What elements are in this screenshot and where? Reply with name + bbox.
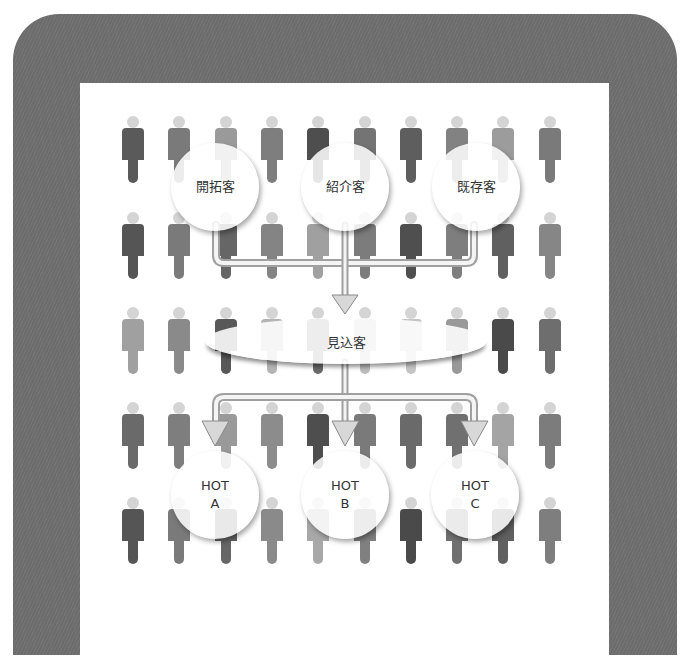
target-label-line2: B [341,495,350,513]
arrow-down-icon [332,295,358,314]
arrow-down-icon [202,421,229,446]
source-bubble-new-customers: 開拓客 [171,143,259,231]
arrow-down-icon [332,421,359,446]
source-label: 紹介客 [326,178,365,196]
target-bubble-hot-c: HOT C [431,451,519,539]
source-bubble-referral-customers: 紹介客 [301,143,389,231]
source-bubble-existing-customers: 既存客 [432,143,520,231]
target-label-line2: A [211,495,220,513]
target-label-line2: C [470,495,479,513]
branch-pipe [216,362,474,425]
arrow-down-icon [461,421,488,446]
source-label: 既存客 [457,178,496,196]
target-bubble-hot-b: HOT B [301,451,389,539]
target-label-line1: HOT [201,477,229,495]
source-label: 開拓客 [196,178,235,196]
prospect-label: 見込客 [327,332,366,351]
target-label-line1: HOT [461,477,489,495]
merge-pipe [216,225,474,298]
prospect-band: 見込客 [205,318,487,364]
target-bubble-hot-a: HOT A [171,451,259,539]
target-label-line1: HOT [331,477,359,495]
